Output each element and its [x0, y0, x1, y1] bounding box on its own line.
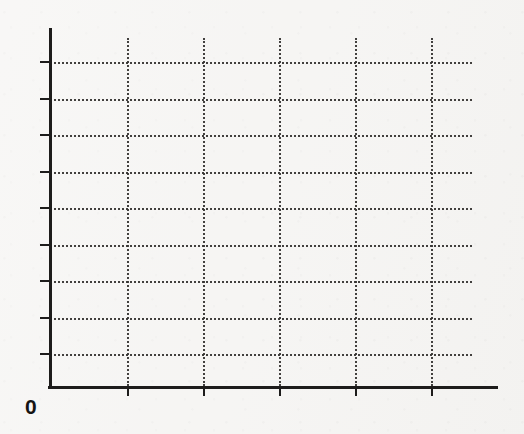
y-axis-tick: [40, 317, 52, 319]
y-axis-tick: [40, 171, 52, 173]
gridline-horizontal: [49, 354, 472, 356]
gridline-horizontal: [49, 99, 472, 101]
x-axis-tick: [279, 386, 281, 396]
y-axis-tick: [40, 244, 52, 246]
x-axis-tick: [127, 386, 129, 396]
gridline-horizontal: [49, 318, 472, 320]
y-axis-tick: [40, 280, 52, 282]
y-axis-tick: [40, 207, 52, 209]
x-axis-tick: [203, 386, 205, 396]
gridline-vertical: [355, 38, 357, 386]
gridline-horizontal: [49, 135, 472, 137]
gridline-horizontal: [49, 208, 472, 210]
gridline-vertical: [431, 38, 433, 386]
x-axis-tick: [355, 386, 357, 396]
gridline-vertical: [203, 38, 205, 386]
y-axis-tick: [40, 134, 52, 136]
gridline-vertical: [127, 38, 129, 386]
x-axis-tick: [431, 386, 433, 396]
origin-label: 0: [25, 396, 37, 417]
chart-plot-area: 0: [0, 0, 524, 434]
y-axis-tick: [40, 61, 52, 63]
gridline-vertical: [279, 38, 281, 386]
gridline-horizontal: [49, 62, 472, 64]
gridline-horizontal: [49, 172, 472, 174]
gridline-horizontal: [49, 245, 472, 247]
y-axis-tick: [40, 98, 52, 100]
gridline-horizontal: [49, 281, 472, 283]
y-axis-tick: [40, 353, 52, 355]
